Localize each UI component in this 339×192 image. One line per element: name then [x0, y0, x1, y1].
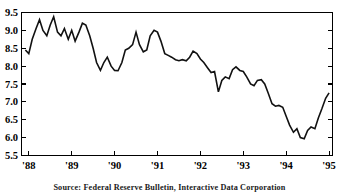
y-tick-label: 8.5: [5, 43, 18, 54]
y-axis-labels: 9.59.08.58.07.57.06.56.05.5: [5, 7, 18, 161]
y-tick-label: 9.5: [5, 7, 18, 18]
source-note: Source: Federal Reserve Bulletin, Intera…: [0, 183, 339, 192]
y-tick-label: 7.5: [5, 79, 18, 90]
x-tick-label: '93: [237, 160, 250, 171]
line-chart: 9.59.08.58.07.57.06.56.05.5 '88'89'90'91…: [0, 0, 339, 192]
y-tick-label: 8.0: [5, 61, 18, 72]
x-tick-label: '88: [22, 160, 35, 171]
chart-figure: 9.59.08.58.07.57.06.56.05.5 '88'89'90'91…: [0, 0, 339, 192]
x-tick-label: '92: [194, 160, 207, 171]
y-tick-label: 6.5: [5, 114, 18, 125]
y-tick-label: 9.0: [5, 25, 18, 36]
x-tick-label: '89: [65, 160, 78, 171]
y-tick-label: 6.0: [5, 132, 18, 143]
y-tick-label: 7.0: [5, 96, 18, 107]
x-tick-label: '90: [108, 160, 121, 171]
x-tick-label: '91: [151, 160, 164, 171]
y-tick-label: 5.5: [5, 150, 18, 161]
x-tick-label: '94: [279, 160, 293, 171]
x-tick-label: '95: [322, 160, 335, 171]
